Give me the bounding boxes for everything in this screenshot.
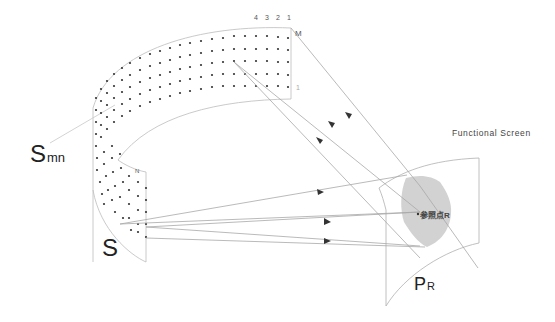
- row-label-n: N: [135, 168, 139, 174]
- diagram-canvas: [0, 0, 555, 322]
- source-surface: [93, 28, 291, 262]
- element-label-sub: mn: [47, 150, 65, 165]
- side-marker: 1: [296, 84, 300, 91]
- row-label-m: M: [295, 29, 302, 38]
- column-number-3: 3: [265, 14, 269, 21]
- element-label-main: S: [30, 140, 46, 167]
- reference-point-label: 参照点R: [420, 209, 450, 220]
- functional-screen-label: Functional Screen: [452, 128, 531, 138]
- column-number-2: 2: [276, 14, 280, 21]
- source-surface-label: S: [102, 234, 118, 262]
- element-label-smn: Smn: [30, 140, 65, 168]
- column-number-1: 1: [287, 14, 291, 21]
- smn-leader-line: [50, 105, 115, 143]
- column-number-4: 4: [254, 14, 258, 21]
- projection-label-pr: PR: [414, 274, 435, 295]
- reference-point-marker: [417, 213, 419, 215]
- projection-label-sub: R: [427, 280, 435, 292]
- projection-label-main: P: [414, 274, 426, 294]
- ray-arrowheads: [316, 112, 352, 244]
